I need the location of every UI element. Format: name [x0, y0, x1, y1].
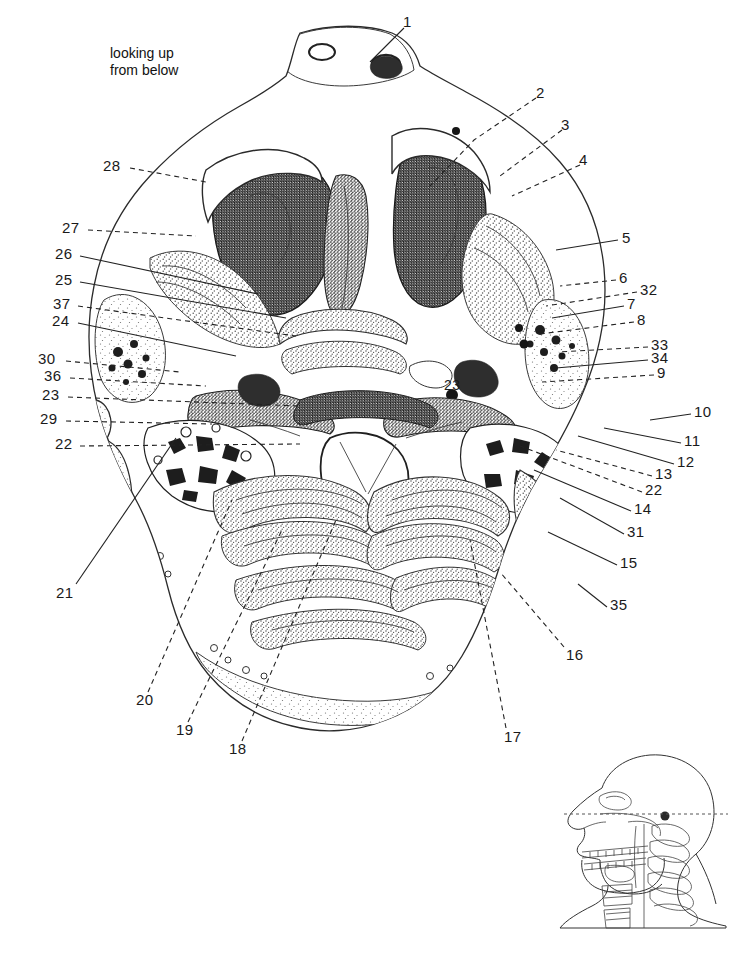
- inset-orbit-detail: [606, 796, 625, 800]
- auricle-right-notch: [636, 408, 647, 442]
- label-16[interactable]: 16: [566, 647, 584, 662]
- label-11[interactable]: 11: [684, 433, 700, 448]
- auricle-left: [9, 398, 111, 467]
- inset-lower-teeth: [584, 858, 646, 870]
- label-34[interactable]: 34: [651, 350, 669, 365]
- occipital-band-left-2: [221, 521, 380, 566]
- auricle-right-fold: [662, 412, 670, 440]
- nostril-shadow: [370, 56, 402, 78]
- inset-zygoma: [600, 813, 661, 836]
- label-15[interactable]: 15: [620, 555, 638, 570]
- inset-neck-back: [696, 854, 716, 904]
- section-internals: [9, 27, 701, 725]
- inset-nasal: [584, 822, 606, 828]
- label-23[interactable]: 23: [42, 387, 60, 402]
- clivus-band: [294, 391, 438, 428]
- posterior-scalp-band: [196, 652, 498, 725]
- lateral-skull-inset: [540, 748, 735, 928]
- anterior-jaw-band: [282, 341, 407, 374]
- label-27[interactable]: 27: [62, 220, 80, 235]
- label-22-left[interactable]: 22: [55, 436, 73, 451]
- label-20[interactable]: 20: [136, 692, 154, 707]
- label-37[interactable]: 37: [53, 296, 71, 311]
- label-6[interactable]: 6: [619, 270, 628, 285]
- occipital-band-right-2: [367, 524, 504, 572]
- label-23-inline[interactable]: 23: [444, 378, 460, 393]
- label-22-right[interactable]: 22: [645, 482, 663, 497]
- label-26[interactable]: 26: [55, 246, 73, 261]
- occipital-band-center-4: [251, 609, 426, 650]
- inset-head-outline: [560, 755, 726, 928]
- label-30[interactable]: 30: [38, 351, 56, 366]
- inset-upper-teeth: [582, 846, 648, 858]
- label-31[interactable]: 31: [627, 524, 645, 539]
- inset-orbit: [599, 792, 631, 810]
- label-1[interactable]: 1: [403, 14, 412, 29]
- label-10[interactable]: 10: [694, 404, 712, 419]
- ramus-band-right: [514, 470, 587, 613]
- label-35[interactable]: 35: [610, 597, 628, 612]
- label-32[interactable]: 32: [640, 282, 658, 297]
- label-25[interactable]: 25: [55, 272, 73, 287]
- label-28[interactable]: 28: [103, 158, 121, 173]
- label-7[interactable]: 7: [627, 296, 636, 311]
- label-13[interactable]: 13: [655, 466, 673, 481]
- parotid-left: [95, 294, 165, 402]
- label-18[interactable]: 18: [229, 741, 247, 756]
- label-36[interactable]: 36: [44, 368, 62, 383]
- label-21[interactable]: 21: [56, 585, 74, 600]
- parotid-right: [525, 300, 589, 409]
- label-4[interactable]: 4: [579, 152, 588, 167]
- label-8[interactable]: 8: [637, 312, 646, 327]
- inset-ear-marker: [661, 812, 670, 821]
- dark-foramen-right: [454, 360, 498, 397]
- hard-palate: [279, 309, 407, 344]
- figure-page: looking up from below: [0, 0, 735, 976]
- label-5[interactable]: 5: [622, 230, 631, 245]
- label-24[interactable]: 24: [52, 313, 70, 328]
- occipital-band-right-3: [390, 567, 506, 612]
- occipital-band-center-3: [235, 565, 406, 610]
- label-12[interactable]: 12: [677, 454, 695, 469]
- inset-larynx-trachea: [602, 865, 634, 928]
- label-17[interactable]: 17: [504, 729, 522, 744]
- label-29[interactable]: 29: [40, 411, 58, 426]
- nostril-left: [309, 44, 335, 60]
- label-9[interactable]: 9: [657, 365, 666, 380]
- label-2[interactable]: 2: [536, 85, 545, 100]
- neck-flap-left: [70, 440, 132, 578]
- label-3[interactable]: 3: [561, 117, 570, 132]
- label-19[interactable]: 19: [176, 722, 194, 737]
- label-14[interactable]: 14: [634, 501, 652, 516]
